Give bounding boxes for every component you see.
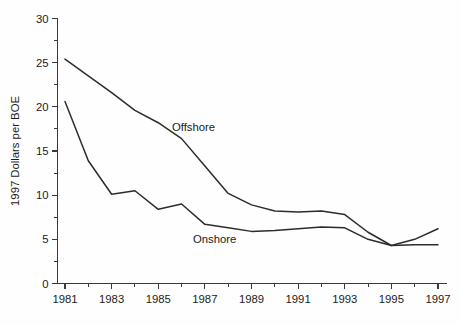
x-tick-label: 1993: [332, 293, 357, 305]
x-axis-ticks: 198119831985198719891991199319951997: [52, 284, 450, 305]
y-axis-title: 1997 Dollars per BOE: [9, 96, 21, 206]
y-tick-label: 30: [36, 13, 49, 25]
x-tick-label: 1997: [425, 293, 450, 305]
y-tick-label: 5: [42, 233, 48, 245]
line-chart: 051015202530 198119831985198719891991199…: [0, 0, 461, 325]
x-tick-label: 1981: [52, 293, 77, 305]
x-tick-label: 1989: [239, 293, 264, 305]
series-line-onshore: [65, 102, 438, 246]
series-label-onshore: Onshore: [193, 233, 236, 245]
data-series-group: [65, 59, 438, 245]
series-line-offshore: [65, 59, 438, 245]
y-tick-label: 25: [36, 57, 49, 69]
y-axis-ticks: 051015202530: [36, 13, 58, 290]
y-tick-label: 0: [42, 278, 48, 290]
x-tick-label: 1987: [192, 293, 217, 305]
x-tick-label: 1991: [286, 293, 311, 305]
y-tick-label: 10: [36, 189, 49, 201]
chart-container: 051015202530 198119831985198719891991199…: [0, 0, 461, 325]
x-tick-label: 1983: [99, 293, 124, 305]
x-tick-label: 1985: [146, 293, 171, 305]
y-tick-label: 20: [36, 101, 49, 113]
y-tick-label: 15: [36, 145, 49, 157]
x-tick-label: 1995: [379, 293, 404, 305]
series-label-offshore: Offshore: [172, 121, 215, 133]
